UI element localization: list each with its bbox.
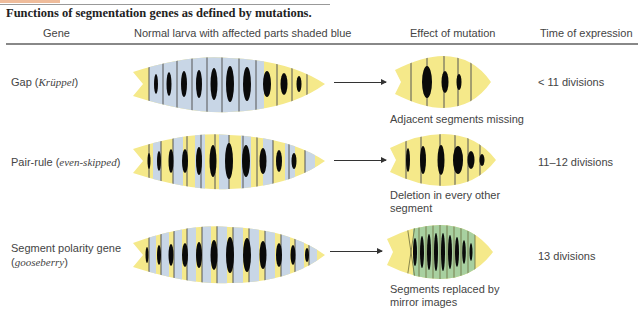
top-rule-cut <box>0 0 60 3</box>
column-header-effect: Effect of mutation <box>410 27 495 39</box>
mutant-larva-segment-polarity <box>385 225 495 279</box>
column-header-gene: Gene <box>43 27 70 39</box>
normal-larva-gap <box>129 56 329 114</box>
arrow-segment-polarity <box>330 251 382 252</box>
mutant-larva-pair-rule <box>388 134 498 186</box>
column-header-normal-larva: Normal larva with affected parts shaded … <box>134 27 351 39</box>
time-gap: < 11 divisions <box>538 76 604 88</box>
time-pair-rule: 11–12 divisions <box>538 156 613 168</box>
gene-label-gap: Gap (Krüppel) <box>11 75 78 89</box>
mutant-larva-gap <box>393 56 493 108</box>
gene-label-pair-rule: Pair-rule (even-skipped) <box>11 155 120 169</box>
effect-pair-rule: Deletion in every other segment <box>390 189 500 215</box>
arrow-pair-rule <box>334 160 386 161</box>
effect-segment-polarity: Segments replaced by mirror images <box>390 283 499 309</box>
header-rule <box>6 43 638 45</box>
figure-title: Functions of segmentation genes as defin… <box>6 6 312 21</box>
effect-gap: Adjacent segments missing <box>390 113 524 126</box>
time-segment-polarity: 13 divisions <box>538 250 595 262</box>
gene-label-segment-polarity: Segment polarity gene (gooseberry) <box>11 241 121 269</box>
normal-larva-pair-rule <box>129 133 329 191</box>
arrow-gap <box>334 82 386 83</box>
column-header-time: Time of expression <box>540 27 633 39</box>
normal-larva-segment-polarity <box>129 225 329 285</box>
top-rule <box>0 4 330 5</box>
